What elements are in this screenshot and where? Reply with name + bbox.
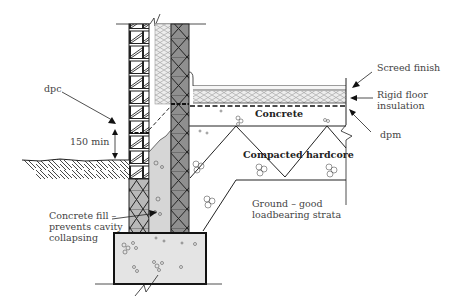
rigid-insulation-layer xyxy=(193,91,346,103)
cavity-concrete-fill xyxy=(149,130,171,234)
dpm-label: dpm xyxy=(380,129,401,140)
ground-label-line2: loadbearing strata xyxy=(252,209,341,220)
cavity-tray xyxy=(149,106,171,130)
strip-foundation xyxy=(114,233,206,284)
concrete-fill-label-3: collapsing xyxy=(49,232,98,243)
insulation-label-2: insulation xyxy=(377,100,425,111)
outer-brick-leaf xyxy=(129,24,149,179)
concrete-fill-label-1: Concrete fill – xyxy=(49,210,116,221)
floor-wall-junction-diagram: Concrete Compacted hardcore Ground – goo… xyxy=(0,0,449,305)
floor-build-up xyxy=(189,72,352,205)
inner-block-leaf xyxy=(171,24,189,234)
dimension-150min xyxy=(112,129,118,159)
cavity-insulation xyxy=(155,24,171,104)
hardcore-label: Compacted hardcore xyxy=(243,149,354,160)
concrete-label: Concrete xyxy=(255,108,303,119)
outer-leaf-below-ground xyxy=(129,179,149,234)
dimension-label: 150 min xyxy=(70,136,109,147)
insulation-label-1: Rigid floor xyxy=(377,89,428,100)
ground-label-line1: Ground – good xyxy=(252,198,323,209)
ground-surface xyxy=(22,159,129,179)
concrete-fill-label-2: prevents cavity xyxy=(49,221,123,232)
screed-label: Screed finish xyxy=(377,62,440,73)
dpc-label: dpc xyxy=(44,83,61,94)
